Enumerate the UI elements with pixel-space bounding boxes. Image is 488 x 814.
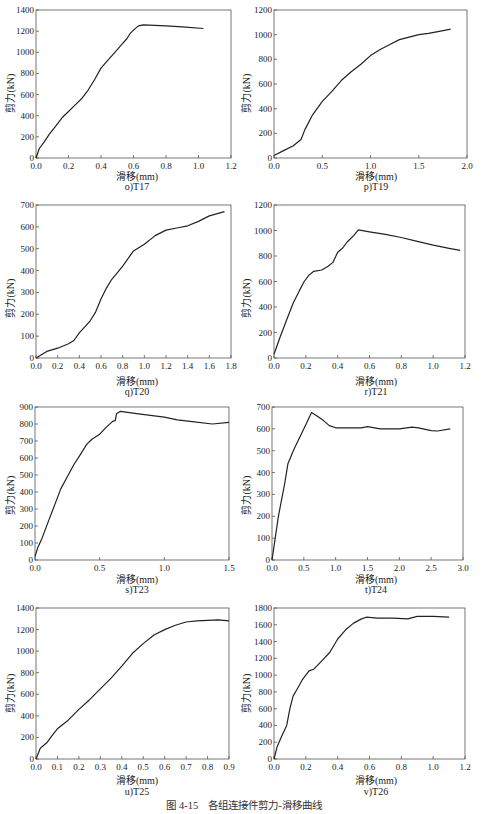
y-tick-label: 1400: [16, 603, 35, 613]
y-tick-label: 500: [21, 244, 35, 254]
data-series-line: [274, 29, 451, 155]
y-tick-label: 400: [20, 487, 34, 497]
y-tick-label: 800: [259, 251, 273, 261]
chart-subtitle: v)T26: [244, 786, 488, 797]
y-tick-label: 600: [259, 704, 273, 714]
chart-v-t26: 0.00.20.40.60.81.01.20200400600800100012…: [244, 600, 488, 800]
x-tick-label: 0.2: [73, 762, 84, 772]
y-tick-label: 1800: [254, 603, 273, 613]
chart-t-t24: 0.00.51.01.52.02.53.00100200300400500600…: [244, 400, 488, 600]
y-tick-label: 800: [21, 68, 35, 78]
y-tick-label: 200: [259, 737, 273, 747]
chart-subtitle: q)T20: [0, 386, 244, 397]
x-tick-label: 1.8: [225, 361, 237, 371]
x-axis-label: 滑移(mm): [0, 772, 244, 787]
x-tick-label: 0.6: [364, 762, 376, 772]
x-tick-label: 0.6: [95, 361, 107, 371]
y-tick-label: 500: [20, 470, 34, 480]
y-axis-label: 剪力(kN): [238, 268, 253, 318]
plot-frame: [272, 407, 463, 560]
y-axis-label: 剪力(kN): [238, 663, 253, 713]
y-tick-label: 300: [257, 489, 271, 499]
plot-frame: [36, 608, 229, 759]
x-tick-label: 0.2: [52, 361, 63, 371]
y-tick-label: 1600: [254, 620, 273, 630]
chart-p-t19: 0.00.51.01.52.0020040060080010001200 剪力(…: [244, 0, 488, 200]
data-series-line: [272, 413, 450, 561]
y-tick-label: 100: [21, 331, 35, 341]
y-tick-label: 0: [30, 353, 35, 363]
y-tick-label: 0: [268, 754, 273, 764]
y-tick-label: 200: [259, 328, 273, 338]
y-tick-label: 0: [30, 754, 35, 764]
x-tick-label: 0.4: [116, 762, 128, 772]
chart-o-t17: 0.00.20.40.60.81.01.20200400600800100012…: [0, 0, 244, 200]
y-axis-label: 剪力(kN): [2, 663, 17, 713]
chart-subtitle: p)T19: [244, 181, 488, 192]
chart-subtitle: t)T24: [244, 584, 488, 595]
y-tick-label: 600: [257, 424, 271, 434]
data-series-line: [274, 230, 460, 354]
y-tick-label: 600: [259, 277, 273, 287]
chart-plot: 0.00.51.01.52.02.53.00100200300400500600…: [244, 400, 488, 600]
chart-s-t23: 0.00.51.01.50100200300400500600700800900…: [0, 400, 244, 600]
y-tick-label: 400: [21, 111, 35, 121]
x-tick-label: 0.8: [396, 361, 408, 371]
x-tick-label: 1.0: [428, 762, 440, 772]
y-tick-label: 1400: [254, 637, 273, 647]
x-tick-label: 1.0: [139, 361, 151, 371]
y-tick-label: 0: [266, 555, 271, 565]
y-tick-label: 1000: [254, 226, 273, 236]
y-tick-label: 0: [268, 353, 273, 363]
y-tick-label: 100: [20, 538, 34, 548]
x-tick-label: 0.8: [396, 762, 408, 772]
x-tick-label: 0.4: [332, 762, 344, 772]
plot-frame: [274, 608, 465, 759]
y-tick-label: 1000: [254, 30, 273, 40]
y-tick-label: 600: [21, 90, 35, 100]
y-tick-label: 600: [21, 222, 35, 232]
x-tick-label: 0.6: [364, 361, 376, 371]
y-tick-label: 100: [257, 533, 271, 543]
chart-subtitle: o)T17: [0, 181, 244, 192]
data-series-line: [36, 212, 225, 358]
y-tick-label: 800: [20, 419, 34, 429]
chart-subtitle: r)T21: [244, 386, 488, 397]
y-tick-label: 200: [21, 732, 35, 742]
y-tick-label: 1400: [16, 5, 35, 15]
y-tick-label: 800: [21, 668, 35, 678]
data-series-line: [35, 411, 229, 556]
y-tick-label: 400: [259, 302, 273, 312]
x-tick-label: 0.2: [300, 361, 311, 371]
x-tick-label: 0.7: [180, 762, 192, 772]
y-tick-label: 600: [20, 453, 34, 463]
chart-q-t20: 0.00.20.40.60.81.01.21.41.61.80100200300…: [0, 195, 244, 405]
y-tick-label: 400: [21, 266, 35, 276]
x-tick-label: 0.4: [332, 361, 344, 371]
plot-frame: [36, 10, 231, 158]
x-tick-label: 1.4: [182, 361, 194, 371]
x-tick-label: 0.2: [300, 762, 311, 772]
y-axis-label: 剪力(kN): [2, 63, 17, 113]
y-tick-label: 0: [30, 153, 35, 163]
y-tick-label: 1200: [254, 653, 273, 663]
y-tick-label: 200: [21, 132, 35, 142]
data-series-line: [36, 25, 203, 158]
x-tick-label: 1.0: [428, 361, 440, 371]
figure-caption: 图 4-15 各组连接件剪力-滑移曲线: [0, 797, 488, 812]
chart-subtitle: s)T23: [0, 584, 244, 595]
chart-subtitle: u)T25: [0, 786, 244, 797]
x-axis-label: 滑移(mm): [244, 772, 488, 787]
y-tick-label: 1200: [16, 625, 35, 635]
x-tick-label: 0.8: [202, 762, 214, 772]
y-tick-label: 0: [268, 153, 273, 163]
y-tick-label: 700: [257, 402, 271, 412]
data-series-line: [274, 616, 449, 759]
x-tick-label: 0.4: [74, 361, 86, 371]
y-tick-label: 1000: [16, 47, 35, 57]
y-tick-label: 0: [29, 555, 34, 565]
x-tick-label: 1.2: [459, 762, 470, 772]
y-tick-label: 800: [259, 54, 273, 64]
x-tick-label: 0.1: [52, 762, 63, 772]
x-tick-label: 0.6: [159, 762, 171, 772]
